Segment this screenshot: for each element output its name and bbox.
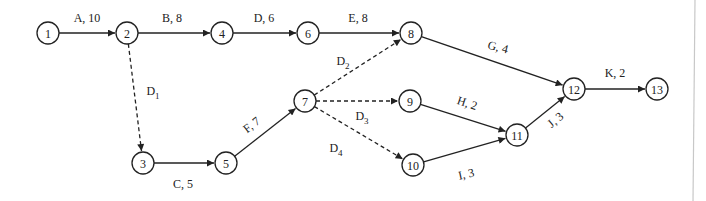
network-diagram: A, 10B, 8D, 6E, 8G, 4D1C, 5F, 7D2D3D4H, … <box>0 0 706 201</box>
edge-7-8 <box>314 39 401 95</box>
node-4: 4 <box>211 22 233 44</box>
node-label: 10 <box>407 159 419 173</box>
node-6: 6 <box>297 22 319 44</box>
node-label: 4 <box>219 27 225 41</box>
page-divider <box>693 0 695 201</box>
edge-label-6-8: E, 8 <box>348 11 367 25</box>
node-label: 6 <box>305 27 311 41</box>
edge-label-7-8: D2 <box>336 54 349 71</box>
node-label: 8 <box>408 27 414 41</box>
node-12: 12 <box>563 78 585 100</box>
edges-layer <box>59 33 645 163</box>
node-label: 7 <box>302 95 308 109</box>
edge-label-10-11: I, 3 <box>457 166 476 183</box>
edge-labels-layer: A, 10B, 8D, 6E, 8G, 4D1C, 5F, 7D2D3D4H, … <box>74 11 626 191</box>
node-label: 1 <box>45 27 51 41</box>
nodes-layer: 12345678910111213 <box>37 22 668 176</box>
node-label: 5 <box>223 157 229 171</box>
edge-label-2-4: B, 8 <box>162 11 182 25</box>
node-1: 1 <box>37 22 59 44</box>
node-10: 10 <box>402 154 424 176</box>
node-label: 12 <box>568 83 580 97</box>
edge-label-11-12: J, 3 <box>545 109 567 130</box>
edge-label-9-11: H, 2 <box>455 93 479 113</box>
node-label: 13 <box>651 83 663 97</box>
node-label: 11 <box>511 129 523 143</box>
node-13: 13 <box>646 78 668 100</box>
edge-label-4-6: D, 6 <box>254 11 275 25</box>
edge-label-5-7: F, 7 <box>240 114 263 136</box>
node-7: 7 <box>294 90 316 112</box>
edge-label-2-3: D1 <box>146 84 159 101</box>
node-label: 2 <box>124 27 130 41</box>
node-9: 9 <box>399 90 421 112</box>
edge-label-7-9: D3 <box>355 109 369 126</box>
node-label: 9 <box>407 95 413 109</box>
edge-label-7-10: D4 <box>329 141 343 158</box>
node-11: 11 <box>506 124 528 146</box>
edge-2-3 <box>128 44 141 151</box>
node-8: 8 <box>400 22 422 44</box>
edge-10-11 <box>424 138 506 162</box>
edge-label-1-2: A, 10 <box>74 11 101 25</box>
node-5: 5 <box>215 152 237 174</box>
edge-label-3-5: C, 5 <box>173 177 193 191</box>
node-2: 2 <box>116 22 138 44</box>
node-3: 3 <box>132 152 154 174</box>
edge-label-12-13: K, 2 <box>605 66 626 80</box>
edge-label-8-12: G, 4 <box>486 38 509 57</box>
edge-5-7 <box>235 108 296 156</box>
node-label: 3 <box>140 157 146 171</box>
